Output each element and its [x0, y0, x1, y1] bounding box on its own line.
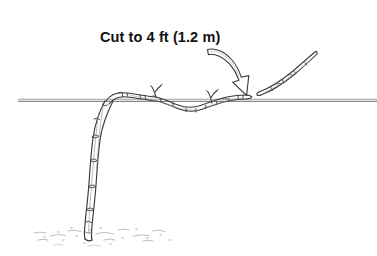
horizontal-trellis-wire: [18, 99, 377, 101]
diagram-canvas: Cut to 4 ft (1.2 m): [0, 0, 377, 256]
pruning-diagram-figure: Cut to 4 ft (1.2 m): [0, 0, 377, 256]
caption-label: Cut to 4 ft (1.2 m): [100, 29, 220, 45]
